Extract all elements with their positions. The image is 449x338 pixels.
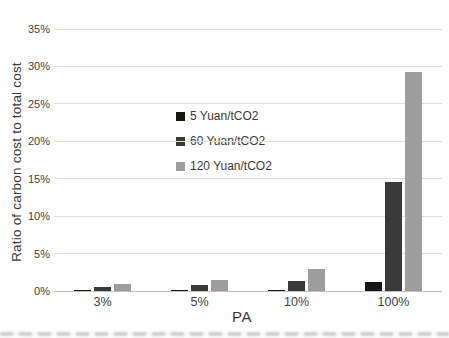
x-axis-title: PA: [54, 308, 430, 325]
y-tick-label-25%: 25%: [16, 98, 50, 110]
gridline-20%: [54, 141, 442, 142]
x-tick-label-5%: 5%: [170, 295, 230, 309]
legend: 5 Yuan/tCO260 Yuan/tCO2120 Yuan/tCO2: [176, 110, 272, 185]
y-tick-label-10%: 10%: [16, 210, 50, 222]
bar-5-yuan-tco2-10%: [268, 290, 285, 291]
gridline-35%: [54, 29, 442, 30]
bar-120-yuan-tco2-5%: [211, 280, 228, 291]
y-tick-label-15%: 15%: [16, 173, 50, 185]
bar-5-yuan-tco2-5%: [171, 290, 188, 291]
bar-60-yuan-tco2-3%: [94, 287, 111, 291]
y-tick-label-35%: 35%: [16, 23, 50, 35]
gridline-15%: [54, 178, 442, 179]
bar-60-yuan-tco2-10%: [288, 281, 305, 291]
legend-swatch-icon: [176, 162, 185, 171]
legend-label: 120 Yuan/tCO2: [190, 159, 272, 173]
bar-120-yuan-tco2-10%: [308, 269, 325, 291]
legend-swatch-icon: [176, 112, 185, 121]
y-tick-label-5%: 5%: [16, 248, 50, 260]
x-tick-label-3%: 3%: [73, 295, 133, 309]
y-axis-title: Ratio of carbon cost to total cost: [9, 47, 27, 277]
gridline-10%: [54, 216, 442, 217]
gridline-30%: [54, 66, 442, 67]
bar-120-yuan-tco2-100%: [405, 72, 422, 291]
bar-5-yuan-tco2-3%: [74, 290, 91, 291]
gridline-5%: [54, 253, 442, 254]
legend-item: 120 Yuan/tCO2: [176, 160, 272, 172]
y-tick-label-0%: 0%: [16, 285, 50, 297]
bar-5-yuan-tco2-100%: [365, 282, 382, 291]
y-tick-label-20%: 20%: [16, 135, 50, 147]
x-tick-label-100%: 100%: [364, 295, 424, 309]
bar-60-yuan-tco2-100%: [385, 182, 402, 291]
legend-item: 5 Yuan/tCO2: [176, 110, 272, 122]
x-axis-line: [54, 291, 442, 292]
plot-area: 5 Yuan/tCO260 Yuan/tCO2120 Yuan/tCO2 0%5…: [54, 29, 442, 291]
bar-chart-figure: Ratio of carbon cost to total cost 5 Yua…: [0, 0, 449, 338]
gridline-25%: [54, 103, 442, 104]
y-tick-label-30%: 30%: [16, 60, 50, 72]
legend-label: 5 Yuan/tCO2: [190, 109, 259, 123]
bar-120-yuan-tco2-3%: [114, 284, 131, 291]
bar-60-yuan-tco2-5%: [191, 285, 208, 291]
x-tick-label-10%: 10%: [267, 295, 327, 309]
cropped-caption-artifact: [0, 332, 449, 336]
